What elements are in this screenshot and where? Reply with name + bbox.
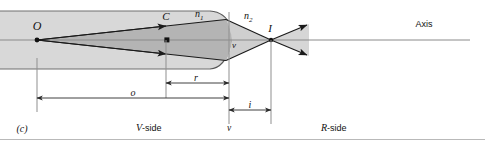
label-vertex-v: v: [232, 40, 236, 50]
dimension-label-r: r: [194, 72, 198, 83]
label-v-side: V-side: [136, 122, 162, 133]
label-center-C: C: [162, 10, 170, 22]
dimension-label-o: o: [131, 87, 136, 98]
label-r-side: R-side: [320, 122, 347, 133]
dimension-image-distance: i: [229, 99, 271, 110]
axis-label: Axis: [415, 19, 433, 29]
label-n2: n2: [244, 10, 253, 24]
dimension-label-i: i: [249, 99, 252, 110]
bottom-annotations: (c) V-side v R-side: [16, 122, 346, 135]
label-image-I: I: [267, 22, 273, 34]
axis-label-group: Axis: [415, 19, 433, 29]
dimension-radius-of-curvature: r: [166, 72, 229, 83]
refraction-spherical-surface-figure: r o i O C I v n1 n2 Axis (c) V-side v R-…: [0, 0, 485, 142]
object-point-dot: [35, 38, 40, 43]
dimension-object-distance: o: [37, 87, 229, 98]
label-vertex-v-bottom: v: [227, 123, 232, 133]
center-of-curvature-dot: [164, 37, 169, 42]
label-object-O: O: [33, 19, 42, 33]
figure-caption-tag: (c): [16, 123, 28, 135]
